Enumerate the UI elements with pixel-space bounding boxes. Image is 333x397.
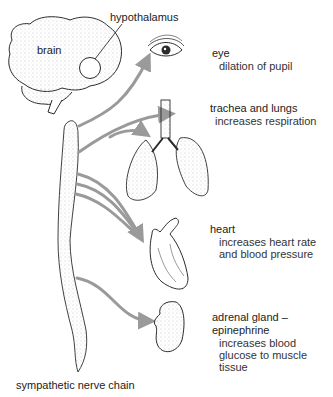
brain-label: brain: [37, 44, 61, 57]
lungs-effect: increases respiration: [215, 115, 317, 128]
adrenal-effect-line-2: glucose to muscle: [219, 349, 307, 362]
nerve-chain-label: sympathetic nerve chain: [16, 379, 135, 392]
heart-effect-line-2: and blood pressure: [219, 248, 313, 261]
adrenal-label-line-2: epinephrine: [212, 324, 270, 337]
eye-icon: [148, 35, 184, 56]
heart-label: heart: [210, 223, 235, 236]
heart-effect-line-1: increases heart rate: [219, 236, 316, 249]
lungs-label: trachea and lungs: [210, 102, 297, 115]
nerve-chain-icon: [58, 121, 87, 372]
hypothalamus-label: hypothalamus: [110, 11, 179, 24]
adrenal-effect-line-3: tissue: [219, 361, 248, 374]
eye-effect: dilation of pupil: [219, 60, 292, 73]
adrenal-gland-icon: [154, 302, 184, 352]
arrow-to-adrenal: [77, 278, 150, 321]
eye-label: eye: [212, 47, 230, 60]
brain-icon: [9, 17, 122, 114]
heart-icon: [150, 218, 188, 289]
adrenal-effect-line-1: increases blood: [219, 337, 296, 350]
adrenal-label-line-1: adrenal gland –: [212, 311, 288, 324]
lungs-icon: [126, 100, 208, 200]
